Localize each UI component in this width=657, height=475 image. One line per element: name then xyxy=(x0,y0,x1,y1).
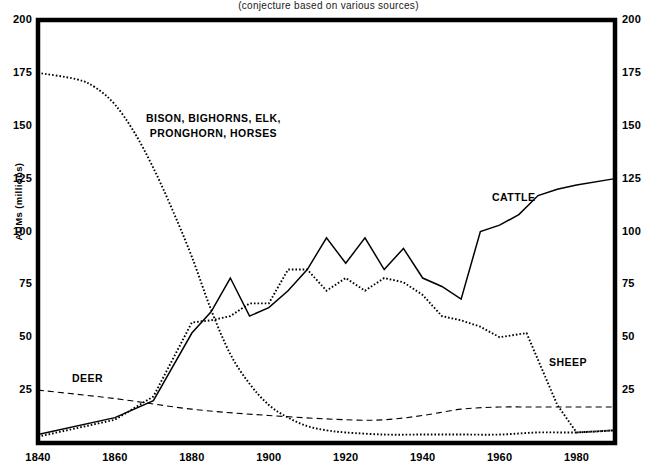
series-line-deer xyxy=(38,390,615,420)
series-label-wildlife-line2: PRONGHORN, HORSES xyxy=(146,126,281,141)
rangeland-forage-use-chart: RANGELAND FORAGE USE (conjecture based o… xyxy=(0,0,657,475)
plot-frame xyxy=(38,20,615,443)
series-line-sheep xyxy=(38,270,615,437)
series-label-wildlife: BISON, BIGHORNS, ELK, PRONGHORN, HORSES xyxy=(146,111,281,141)
series-label-wildlife-line1: BISON, BIGHORNS, ELK, xyxy=(146,111,281,126)
series-line-cattle xyxy=(38,179,615,435)
series-label-deer: DEER xyxy=(72,371,103,386)
series-line-wildlife xyxy=(38,73,615,435)
series-label-sheep: SHEEP xyxy=(549,355,587,370)
plot-area xyxy=(0,0,657,475)
data-series-group xyxy=(38,73,615,437)
series-label-cattle: CATTLE xyxy=(492,190,535,205)
